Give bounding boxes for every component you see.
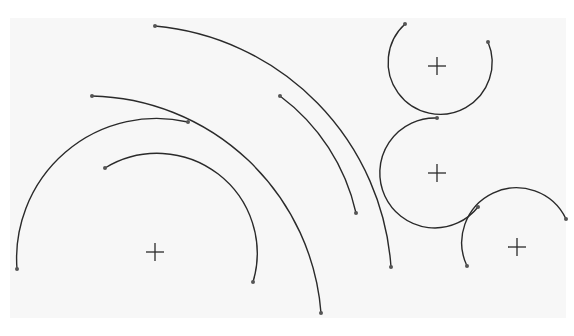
diagram-panel bbox=[10, 18, 566, 318]
arc-circle-b-end-point bbox=[486, 40, 490, 44]
arc-4-end-point bbox=[389, 265, 393, 269]
arc-circle-d-end-point bbox=[564, 217, 568, 221]
arc-5-end-point bbox=[354, 211, 358, 215]
arc-3-end-point bbox=[319, 311, 323, 315]
arc-circle-c-start-point bbox=[435, 116, 439, 120]
arc-5-start-point bbox=[278, 94, 282, 98]
arc-circle-c-end-point bbox=[476, 205, 480, 209]
arc-3-start-point bbox=[90, 94, 94, 98]
arc-circle-d-start-point bbox=[465, 264, 469, 268]
arc-2-start-point bbox=[15, 267, 19, 271]
arc-1-end-point bbox=[251, 280, 255, 284]
arc-circle-b-start-point bbox=[403, 22, 407, 26]
arc-2-end-point bbox=[186, 120, 190, 124]
arc-4-start-point bbox=[153, 24, 157, 28]
arc-1-start-point bbox=[103, 166, 107, 170]
arc-diagram bbox=[0, 0, 574, 336]
